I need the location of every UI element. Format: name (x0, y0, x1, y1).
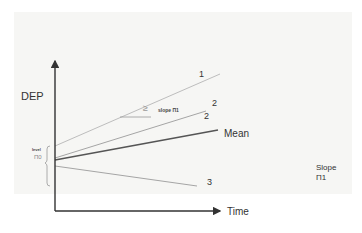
x-axis-label: Time (227, 207, 249, 217)
slope-legend-line2: Π1 (316, 174, 326, 182)
slope-legend-line1: Slope (316, 164, 336, 172)
trajectory-line-1 (55, 74, 220, 146)
line-3-label: 3 (207, 178, 212, 187)
trajectory-line-2 (55, 111, 206, 158)
mean-line-label: Mean (224, 129, 249, 139)
line-1-label: 1 (199, 70, 204, 79)
slope-glyph: ≥ (143, 104, 148, 113)
y-axis-label: DEP (21, 91, 44, 102)
level-word: level (32, 148, 41, 152)
level-bracket (45, 146, 50, 186)
slope-annotation-text: slope Π1 (158, 108, 179, 113)
line-2-label: 2 (212, 99, 217, 108)
growth-model-diagram (0, 0, 362, 233)
trajectory-line-mean (55, 130, 218, 160)
trajectory-line-3 (55, 166, 197, 186)
line-2-second-label: 2 (204, 112, 209, 121)
level-symbol: Π0 (34, 154, 42, 160)
